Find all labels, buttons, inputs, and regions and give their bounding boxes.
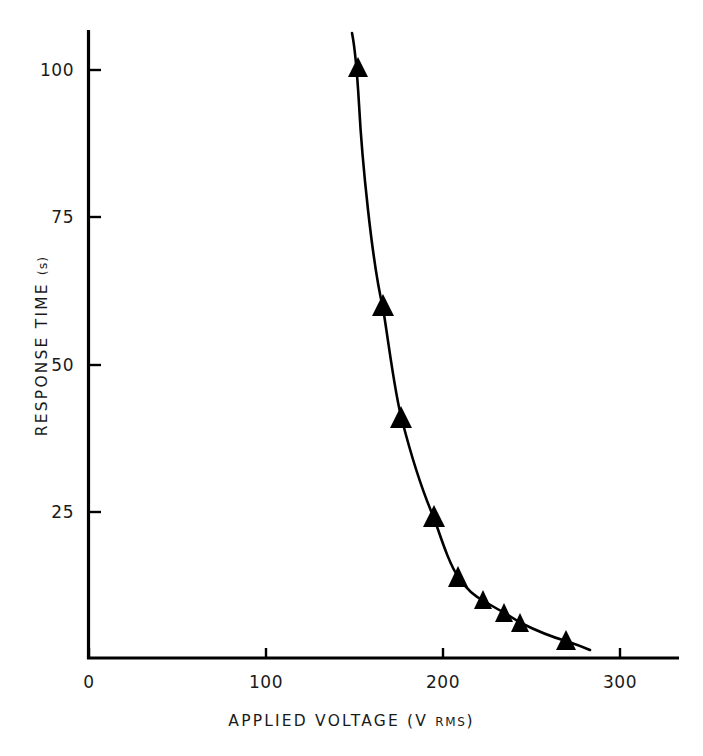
x-tick-label-0: 0 [83, 672, 94, 692]
data-markers [348, 57, 576, 650]
x-axis-label-tail: ) [466, 712, 474, 730]
x-axis-label-main: APPLIED VOLTAGE (V [228, 712, 435, 730]
data-point-marker [372, 294, 394, 316]
data-point-marker [474, 590, 492, 609]
data-point-marker [495, 603, 513, 622]
axes-group [87, 30, 679, 659]
x-tick-label-200: 200 [426, 672, 460, 692]
y-axis-label-unit: (s) [35, 256, 50, 275]
y-axis-label: RESPONSE TIME (s) [33, 186, 51, 506]
data-point-marker [423, 505, 445, 527]
data-point-marker [448, 566, 468, 587]
x-tick-label-100: 100 [249, 672, 283, 692]
y-axis-label-main: RESPONSE TIME [33, 275, 51, 436]
x-axis-label: APPLIED VOLTAGE (V RMS) [0, 712, 703, 730]
data-line [352, 33, 590, 650]
data-point-marker [390, 406, 412, 428]
y-tick-label-100: 100 [32, 60, 74, 80]
x-tick-label-300: 300 [603, 672, 637, 692]
data-point-marker [348, 57, 368, 77]
y-tick-marks [89, 70, 102, 512]
data-point-marker [511, 613, 529, 632]
chart-plot-area [0, 0, 703, 756]
chart-figure: 100 75 50 25 0 100 200 300 APPLIED VOLTA… [0, 0, 703, 756]
x-axis-label-smallcaps: RMS [435, 715, 466, 729]
